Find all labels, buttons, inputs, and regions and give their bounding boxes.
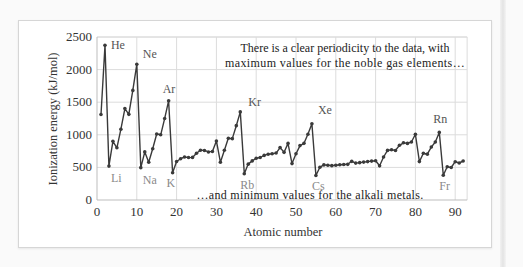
element-label-li: Li <box>111 171 122 185</box>
data-point <box>398 143 402 147</box>
data-point <box>445 165 449 169</box>
data-point <box>358 161 362 165</box>
data-point <box>394 149 398 153</box>
data-point <box>163 117 167 121</box>
data-point <box>282 151 286 155</box>
data-point <box>434 140 438 144</box>
data-point <box>422 152 426 156</box>
data-point <box>175 160 179 164</box>
data-point <box>294 152 298 156</box>
data-point <box>390 148 394 152</box>
x-axis-title: Atomic number <box>244 225 324 239</box>
data-point <box>231 137 235 141</box>
data-point <box>426 152 430 156</box>
data-point <box>334 163 338 167</box>
data-point <box>242 172 246 176</box>
element-label-k: K <box>167 176 176 190</box>
data-point <box>354 161 358 165</box>
data-point <box>374 159 378 163</box>
data-point <box>266 152 270 156</box>
y-tick-label: 1500 <box>66 94 92 109</box>
data-point <box>306 132 310 136</box>
data-point <box>278 146 282 150</box>
data-point <box>342 163 346 167</box>
data-point <box>123 107 127 111</box>
data-point <box>139 166 143 170</box>
data-point <box>298 144 302 148</box>
data-point <box>238 110 242 114</box>
data-point <box>179 157 183 161</box>
data-point <box>350 160 354 164</box>
data-point <box>167 99 171 103</box>
data-point <box>143 150 147 154</box>
x-tick-label: 80 <box>409 204 422 219</box>
data-point <box>274 151 278 155</box>
data-point <box>135 63 139 67</box>
data-point <box>131 89 135 93</box>
element-label-he: He <box>111 38 125 52</box>
data-point <box>330 164 334 168</box>
data-point <box>362 160 366 164</box>
element-label-na: Na <box>143 173 158 187</box>
y-tick-label: 2000 <box>66 62 92 77</box>
data-point <box>199 148 203 152</box>
y-tick-label: 500 <box>73 159 93 174</box>
data-point <box>270 152 274 156</box>
x-tick-label: 90 <box>449 204 462 219</box>
x-tick-label: 50 <box>290 204 303 219</box>
x-tick-label: 0 <box>94 204 101 219</box>
data-point <box>402 141 406 145</box>
data-point <box>441 173 445 177</box>
data-point <box>254 156 258 160</box>
data-point <box>290 162 294 166</box>
data-point <box>195 151 199 155</box>
data-point <box>103 44 107 48</box>
annotation-line-1: There is a clear periodicity to the data… <box>241 41 450 55</box>
data-point <box>453 160 457 164</box>
data-point <box>187 156 191 160</box>
data-point <box>430 145 434 149</box>
data-point <box>322 163 326 167</box>
data-point <box>99 113 103 117</box>
data-point <box>378 164 382 168</box>
data-point <box>215 139 219 143</box>
data-point <box>326 163 330 167</box>
data-point <box>370 159 374 163</box>
data-point <box>258 156 262 160</box>
data-point <box>262 154 266 158</box>
data-point <box>461 159 465 163</box>
data-point <box>171 171 175 175</box>
data-point <box>410 140 414 144</box>
data-point <box>302 142 306 146</box>
data-point <box>406 142 410 146</box>
x-tick-label: 40 <box>250 204 263 219</box>
element-label-ne: Ne <box>143 47 157 61</box>
data-point <box>219 160 223 164</box>
data-point <box>223 149 227 153</box>
x-tick-label: 20 <box>170 204 183 219</box>
data-point <box>314 174 318 178</box>
element-label-fr: Fr <box>439 179 450 193</box>
data-point <box>159 133 163 137</box>
data-point <box>449 166 453 170</box>
y-axis-title: Ionization energy (kJ/mol) <box>46 52 60 185</box>
x-tick-label: 70 <box>369 204 382 219</box>
data-point <box>418 160 422 164</box>
data-point <box>457 161 461 165</box>
data-point <box>203 149 207 153</box>
data-point <box>235 124 239 128</box>
x-tick-label: 60 <box>329 204 342 219</box>
data-point <box>227 136 231 140</box>
element-label-xe: Xe <box>318 103 332 117</box>
data-point <box>147 161 151 165</box>
data-point <box>338 163 342 167</box>
data-point <box>382 155 386 159</box>
x-tick-label: 30 <box>210 204 223 219</box>
data-point <box>386 149 390 153</box>
data-point <box>115 146 119 150</box>
data-point <box>366 160 370 164</box>
annotation-line-3: …and minimum values for the alkali metal… <box>197 188 424 202</box>
data-point <box>286 142 290 146</box>
data-point <box>211 150 215 154</box>
data-point <box>183 155 187 159</box>
